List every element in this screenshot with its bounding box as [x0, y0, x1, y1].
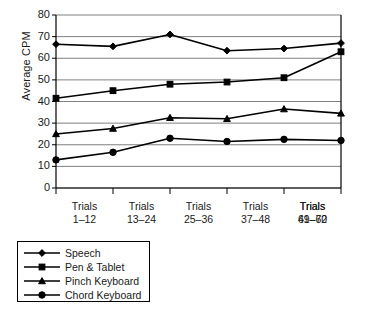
series-pinch-keyboard [53, 106, 345, 137]
square-icon [338, 49, 344, 55]
series-line [56, 138, 341, 160]
circle-icon [167, 135, 173, 141]
circle-icon [110, 149, 116, 155]
data-point [53, 95, 59, 101]
data-point [281, 75, 287, 81]
square-icon [224, 79, 230, 85]
series-chord-keyboard [53, 135, 344, 163]
series-line [56, 109, 341, 134]
diamond-icon [39, 250, 46, 257]
data-point [224, 47, 231, 54]
legend-label: Speech [65, 247, 101, 259]
legend-label: Chord Keyboard [65, 289, 141, 301]
square-icon [53, 95, 59, 101]
diamond-marker [23, 247, 61, 259]
square-icon [110, 88, 116, 94]
square-icon [39, 264, 45, 270]
data-point [338, 49, 344, 55]
circle-marker [23, 289, 61, 301]
square-icon [281, 75, 287, 81]
triangle-marker [23, 275, 61, 287]
series-pen-tablet [53, 49, 344, 101]
data-point [110, 88, 116, 94]
legend-item-speech[interactable]: Speech [23, 246, 101, 260]
data-point [53, 41, 60, 48]
chart-legend: SpeechPen & TabletPinch KeyboardChord Ke… [17, 241, 150, 302]
data-point [338, 137, 344, 143]
circle-icon [53, 157, 59, 163]
data-point [110, 149, 116, 155]
diamond-icon [53, 41, 60, 48]
square-marker [23, 261, 61, 273]
diamond-icon [110, 43, 117, 50]
data-point [110, 43, 117, 50]
data-point [338, 40, 345, 47]
diamond-icon [281, 45, 288, 52]
data-point [53, 157, 59, 163]
data-point [224, 138, 230, 144]
x-tick-label-line1: Trials [273, 200, 353, 213]
x-tick-label-line2: 61–72 [273, 213, 353, 226]
circle-icon [224, 138, 230, 144]
legend-item-chord-keyboard[interactable]: Chord Keyboard [23, 288, 141, 302]
circle-marker [39, 292, 45, 298]
legend-label: Pen & Tablet [65, 261, 124, 273]
diamond-icon [338, 40, 345, 47]
data-point [281, 45, 288, 52]
circle-icon [281, 136, 287, 142]
diamond-marker [39, 250, 46, 257]
circle-icon [338, 137, 344, 143]
data-point [224, 79, 230, 85]
x-tick-label: Trials61–72 [273, 200, 353, 225]
data-point [281, 136, 287, 142]
square-icon [167, 81, 173, 87]
legend-label: Pinch Keyboard [65, 275, 139, 287]
grid-lines [56, 15, 341, 188]
diamond-icon [224, 47, 231, 54]
circle-icon [39, 292, 45, 298]
data-point [167, 81, 173, 87]
legend-item-pen-tablet[interactable]: Pen & Tablet [23, 260, 124, 274]
square-marker [39, 264, 45, 270]
legend-item-pinch-keyboard[interactable]: Pinch Keyboard [23, 274, 139, 288]
data-point [167, 135, 173, 141]
chart-figure: Average CPM 80706050403020100 Trials1–12… [0, 0, 373, 312]
series-speech [53, 31, 345, 54]
